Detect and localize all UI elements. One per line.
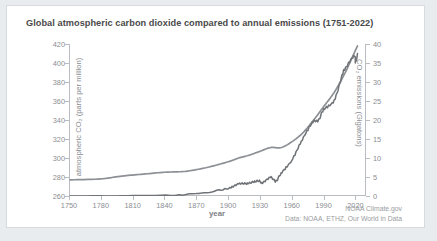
source-credit: NOAA Climate.gov Data: NOAA, ETHZ, Our W… xyxy=(285,204,402,223)
y-axis-left-tick-label: 360 xyxy=(53,97,65,106)
x-axis-tick xyxy=(324,196,325,200)
x-axis-tick-label: 1840 xyxy=(156,201,172,210)
screenshot-root: Global atmospheric carbon dioxide compar… xyxy=(0,0,437,241)
x-axis-tick xyxy=(164,196,165,200)
y-axis-left-tick-label: 400 xyxy=(53,59,65,68)
y-axis-right-tick-label: 30 xyxy=(373,78,381,87)
y-axis-right-tick xyxy=(366,139,370,140)
y-axis-left-tick-label: 380 xyxy=(53,78,65,87)
credit-line-1: NOAA Climate.gov xyxy=(285,204,402,214)
x-axis-tick-label: 1780 xyxy=(93,201,109,210)
y-axis-left-tick-label: 280 xyxy=(53,173,65,182)
x-axis-tick-label: 1930 xyxy=(252,201,268,210)
y-axis-right-tick-label: 0 xyxy=(373,192,377,201)
x-axis-tick xyxy=(196,196,197,200)
chart-card: Global atmospheric carbon dioxide compar… xyxy=(6,5,425,228)
x-axis-tick xyxy=(260,196,261,200)
y-axis-right-tick xyxy=(366,120,370,121)
credit-line-2: Data: NOAA, ETHZ, Our World in Data xyxy=(285,214,402,224)
y-axis-right-tick xyxy=(366,158,370,159)
x-axis-label: year xyxy=(209,209,225,218)
y-axis-left-tick-label: 340 xyxy=(53,116,65,125)
x-axis-tick-label: 1900 xyxy=(220,201,236,210)
y-axis-right-tick-label: 25 xyxy=(373,97,381,106)
co2-emissions-line xyxy=(70,54,357,197)
x-axis-tick-label: 1870 xyxy=(188,201,204,210)
chart-title: Global atmospheric carbon dioxide compar… xyxy=(26,18,373,28)
y-axis-right-tick-label: 10 xyxy=(373,154,381,163)
y-axis-right-tick-label: 40 xyxy=(373,40,381,49)
x-axis-tick xyxy=(228,196,229,200)
y-axis-right-tick xyxy=(366,196,370,197)
y-axis-right-tick-label: 15 xyxy=(373,135,381,144)
y-axis-right-tick-label: 20 xyxy=(373,116,381,125)
chart-curves xyxy=(69,44,366,196)
y-axis-right-tick-label: 5 xyxy=(373,173,377,182)
co2-concentration-line xyxy=(70,46,357,180)
y-axis-right-tick-label: 35 xyxy=(373,59,381,68)
y-axis-right-tick xyxy=(366,63,370,64)
y-axis-right-tick xyxy=(366,82,370,83)
y-axis-right-tick xyxy=(366,44,370,45)
y-axis-left-tick-label: 420 xyxy=(53,40,65,49)
y-axis-left-tick-label: 260 xyxy=(53,192,65,201)
plot-area: 260280300320340360380400420 051015202530… xyxy=(69,44,366,196)
x-axis-tick-label: 1750 xyxy=(61,201,77,210)
y-axis-right-tick xyxy=(366,101,370,102)
x-axis-tick xyxy=(101,196,102,200)
x-axis-tick xyxy=(292,196,293,200)
y-axis-right-tick xyxy=(366,177,370,178)
y-axis-left-tick-label: 300 xyxy=(53,154,65,163)
x-axis-tick-label: 1810 xyxy=(124,201,140,210)
x-axis-tick xyxy=(133,196,134,200)
x-axis-tick xyxy=(355,196,356,200)
x-axis-tick xyxy=(69,196,70,200)
y-axis-left-tick-label: 320 xyxy=(53,135,65,144)
